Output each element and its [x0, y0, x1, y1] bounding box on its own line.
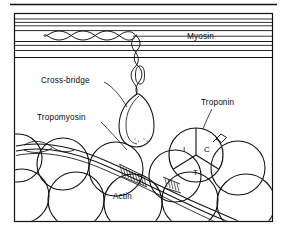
figure-root: Myosin Cross-bridge Tropomyosin Troponin	[0, 0, 287, 235]
muscle-filament-diagram: Myosin Cross-bridge Tropomyosin Troponin	[0, 0, 287, 235]
head-dot-4	[146, 140, 147, 141]
label-tropomyosin: Tropomyosin	[37, 113, 86, 122]
label-cross-bridge: Cross-bridge	[41, 76, 90, 85]
troponin-subunit-c: C	[204, 145, 210, 154]
troponin-subunit-i: I	[183, 145, 185, 154]
head-dot-1	[134, 138, 135, 139]
label-myosin: Myosin	[187, 32, 214, 41]
label-actin: Actin	[113, 192, 132, 201]
label-troponin: Troponin	[201, 98, 235, 107]
troponin-subunit-t: T	[193, 168, 198, 177]
head-dot-2	[138, 140, 139, 141]
head-dot-3	[143, 138, 144, 139]
